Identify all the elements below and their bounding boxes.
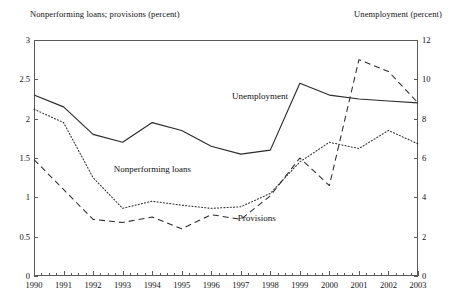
chart-figure: Nonperforming loans; provisions (percent… (0, 0, 453, 303)
x-tick-label: 2001 (350, 280, 367, 290)
x-tick-label: 1990 (26, 280, 43, 290)
x-tick-label: 2003 (410, 280, 427, 290)
left-tick-label: 1 (26, 192, 30, 202)
x-tick-label: 1995 (173, 280, 190, 290)
right-tick-label: 8 (422, 114, 426, 124)
right-tick-label: 2 (422, 232, 426, 242)
left-tick-mark (34, 276, 38, 277)
x-tick-label: 1991 (55, 280, 72, 290)
series-label-nonperforming-loans: Nonperforming loans (114, 164, 191, 174)
left-axis-title: Nonperforming loans; provisions (percent… (30, 9, 180, 19)
series-lines (34, 40, 418, 276)
right-tick-label: 12 (422, 35, 431, 45)
left-tick-label: 1.5 (19, 153, 30, 163)
x-tick-label: 1996 (203, 280, 220, 290)
x-tick-major (418, 271, 419, 276)
right-tick-mark (414, 276, 418, 277)
left-tick-label: 2 (26, 114, 30, 124)
right-axis-title: Unemployment (percent) (354, 9, 442, 19)
series-label-unemployment: Unemployment (232, 91, 288, 101)
x-tick-label: 2000 (321, 280, 338, 290)
x-tick-label: 2002 (380, 280, 397, 290)
x-tick-label: 1999 (291, 280, 308, 290)
x-tick-label: 1994 (144, 280, 161, 290)
x-tick-label: 1993 (114, 280, 131, 290)
right-tick-label: 10 (422, 74, 431, 84)
x-tick-label: 1992 (85, 280, 102, 290)
series-line-nonperforming-loans (34, 109, 418, 208)
series-line-unemployment (34, 83, 418, 154)
x-tick-label: 1998 (262, 280, 279, 290)
right-tick-label: 4 (422, 192, 426, 202)
series-line-provisions (34, 60, 418, 229)
series-label-provisions: Provisions (238, 213, 276, 223)
left-tick-label: 0.5 (19, 232, 30, 242)
x-tick-label: 1997 (232, 280, 249, 290)
left-tick-label: 3 (26, 35, 30, 45)
right-tick-label: 6 (422, 153, 426, 163)
left-tick-label: 2.5 (19, 74, 30, 84)
plot-area: 00.511.522.53 024681012 1990199119921993… (34, 40, 418, 276)
